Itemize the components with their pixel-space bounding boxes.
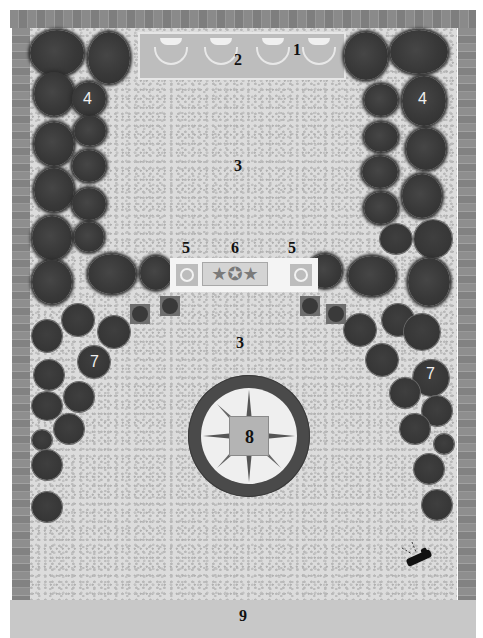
round-shrub bbox=[34, 360, 64, 390]
shrub bbox=[402, 174, 442, 218]
label-3-lower: 3 bbox=[236, 335, 244, 351]
garden-plan: ★✪★ 1 2 3 3 4 4 5 5 6 bbox=[10, 10, 476, 630]
shrub bbox=[344, 32, 388, 80]
label-5-left: 5 bbox=[182, 240, 190, 256]
brick-wall-top bbox=[10, 10, 476, 28]
sculpture-panel: ★✪★ bbox=[202, 262, 268, 286]
round-shrub bbox=[54, 414, 84, 444]
round-shrub bbox=[400, 414, 430, 444]
round-shrub bbox=[422, 490, 452, 520]
shrub bbox=[364, 192, 398, 224]
shrub bbox=[406, 128, 446, 170]
shrub bbox=[364, 84, 398, 116]
urn-left bbox=[176, 264, 198, 286]
boxed-shrub bbox=[326, 304, 346, 324]
label-4-left: 4 bbox=[83, 91, 92, 107]
round-shrub bbox=[32, 392, 62, 420]
shrub bbox=[72, 188, 106, 220]
label-2: 2 bbox=[234, 52, 242, 68]
round-shrub bbox=[344, 314, 376, 346]
shrub bbox=[34, 72, 74, 116]
label-9: 9 bbox=[239, 608, 247, 624]
bench-strip: ★✪★ bbox=[170, 258, 318, 292]
shrub bbox=[88, 254, 136, 294]
shrub bbox=[72, 150, 106, 182]
fountain-icon bbox=[154, 38, 190, 68]
round-shrub bbox=[366, 344, 398, 376]
star-circle-star-icon: ★✪★ bbox=[211, 265, 258, 283]
shrub bbox=[362, 156, 398, 188]
shrub bbox=[34, 122, 74, 166]
shrub bbox=[348, 256, 396, 296]
label-5-right: 5 bbox=[288, 240, 296, 256]
raised-planter bbox=[138, 32, 346, 80]
round-shrub bbox=[32, 320, 62, 352]
shrub bbox=[380, 224, 412, 254]
fountain-icon bbox=[302, 38, 338, 68]
shrub bbox=[30, 30, 84, 76]
round-shrub bbox=[32, 492, 62, 522]
label-6: 6 bbox=[231, 240, 239, 256]
label-8: 8 bbox=[245, 428, 254, 446]
shrub bbox=[88, 32, 130, 84]
round-shrub bbox=[434, 434, 454, 454]
round-shrub bbox=[32, 430, 52, 450]
shrub bbox=[32, 216, 72, 260]
shrub bbox=[408, 258, 450, 306]
round-shrub bbox=[62, 304, 94, 336]
shrub bbox=[390, 30, 448, 74]
boxed-shrub bbox=[160, 296, 180, 316]
round-shrub bbox=[98, 316, 130, 348]
boxed-shrub bbox=[130, 304, 150, 324]
round-shrub bbox=[390, 378, 420, 408]
urn-right bbox=[290, 264, 312, 286]
shrub bbox=[34, 168, 74, 212]
label-3-upper: 3 bbox=[234, 158, 242, 174]
shrub bbox=[74, 222, 104, 252]
label-7-left: 7 bbox=[90, 354, 99, 370]
round-shrub bbox=[414, 454, 444, 484]
shrub bbox=[414, 220, 452, 258]
label-7-right: 7 bbox=[426, 366, 435, 382]
shrub bbox=[32, 260, 72, 304]
shrub bbox=[140, 256, 172, 290]
brick-wall-right bbox=[458, 28, 476, 600]
shrub bbox=[364, 122, 398, 152]
label-1: 1 bbox=[293, 42, 301, 58]
label-4-right: 4 bbox=[418, 91, 427, 107]
round-shrub bbox=[64, 382, 94, 412]
round-shrub bbox=[32, 450, 62, 480]
fountain-icon bbox=[256, 38, 292, 68]
boxed-shrub bbox=[300, 296, 320, 316]
sprinkler-icon bbox=[400, 538, 440, 570]
shrub bbox=[74, 116, 106, 146]
round-shrub bbox=[404, 314, 440, 350]
brick-wall-left bbox=[12, 28, 30, 600]
